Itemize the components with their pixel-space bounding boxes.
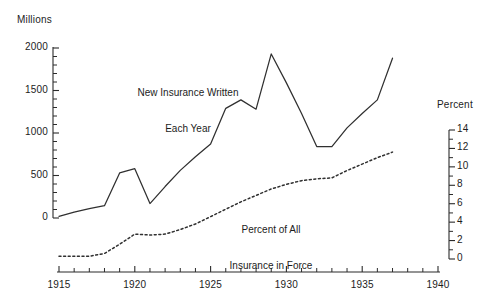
x-tick-label-1925: 1925 bbox=[197, 279, 225, 290]
right-axis-title: Percent bbox=[437, 99, 473, 110]
annotation-line-2: Insurance in Force bbox=[196, 260, 346, 272]
y-tick-label-left-2000: 2000 bbox=[10, 41, 48, 52]
annotation-line-1: New Insurance Written bbox=[113, 87, 263, 99]
y-tick-label-right-2: 2 bbox=[457, 234, 483, 245]
y-tick-label-right-10: 10 bbox=[457, 160, 483, 171]
y-tick-label-right-12: 12 bbox=[457, 141, 483, 152]
x-tick-label-1915: 1915 bbox=[45, 279, 73, 290]
y-tick-label-right-8: 8 bbox=[457, 178, 483, 189]
x-tick-label-1940: 1940 bbox=[424, 279, 452, 290]
y-tick-label-right-4: 4 bbox=[457, 215, 483, 226]
y-tick-label-left-1000: 1000 bbox=[10, 126, 48, 137]
y-tick-label-right-6: 6 bbox=[457, 197, 483, 208]
y-tick-label-left-500: 500 bbox=[10, 169, 48, 180]
y-tick-label-left-1500: 1500 bbox=[10, 84, 48, 95]
x-tick-label-1920: 1920 bbox=[121, 279, 149, 290]
y-tick-label-left-0: 0 bbox=[10, 211, 48, 222]
chart-container: Millions Percent New Insurance Written E… bbox=[0, 0, 502, 308]
annotation-new-insurance-written: New Insurance Written Each Year bbox=[113, 63, 263, 159]
y-tick-label-right-0: 0 bbox=[457, 252, 483, 263]
annotation-line-1: Percent of All bbox=[196, 224, 346, 236]
left-axis-title: Millions bbox=[17, 14, 52, 25]
y-tick-label-right-14: 14 bbox=[457, 123, 483, 134]
x-tick-label-1935: 1935 bbox=[348, 279, 376, 290]
x-tick-label-1930: 1930 bbox=[272, 279, 300, 290]
annotation-line-2: Each Year bbox=[113, 123, 263, 135]
